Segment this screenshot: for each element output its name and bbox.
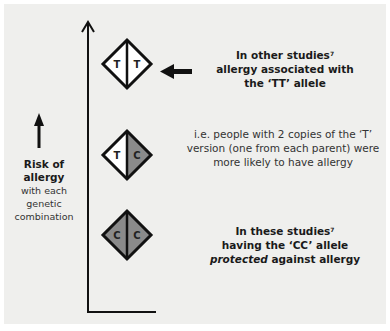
tt-annotation: In other studies7 allergy associated wit… [205,48,365,90]
cc-annotation-emphasis: protected [210,253,268,265]
svg-text:C: C [133,150,140,161]
cc-annotation-line2: having the ‘CC’ allele [205,238,365,252]
tc-annotation-line2: version (one from each parent) were [178,141,388,155]
risk-label-line4: genetic [4,197,84,210]
risk-label-line2: allergy [4,171,84,184]
genotype-tt-diamond: T T [103,40,151,88]
tc-annotation: i.e. people with 2 copies of the ‘T’ ver… [178,127,388,169]
genotype-tc-diamond: T C [103,131,151,179]
citation-superscript: 7 [330,50,334,57]
left-arrow-icon [160,64,192,79]
risk-label-line1: Risk of [4,158,84,171]
cc-annotation-line1: In these studies [235,225,330,237]
cc-annotation: In these studies7 having the ‘CC’ allele… [205,224,365,266]
svg-text:C: C [133,230,140,241]
citation-superscript: 7 [330,226,334,233]
svg-text:C: C [113,230,120,241]
tt-annotation-line2: allergy associated with [205,62,365,76]
risk-label-line3: with each [4,184,84,197]
tt-annotation-line3: the ‘TT’ allele [205,76,365,90]
tc-annotation-line3: more likely to have allergy [178,155,388,169]
tt-annotation-line1: In other studies [236,49,330,61]
risk-label: Risk of allergy with each genetic combin… [4,158,84,223]
risk-label-line5: combination [4,210,84,223]
svg-text:T: T [114,150,121,161]
genotype-cc-diamond: C C [103,211,151,259]
svg-text:T: T [134,59,141,70]
svg-text:T: T [114,59,121,70]
up-arrow-icon [34,113,44,148]
cc-annotation-line3: against allergy [268,253,360,265]
tc-annotation-line1: i.e. people with 2 copies of the ‘T’ [178,127,388,141]
